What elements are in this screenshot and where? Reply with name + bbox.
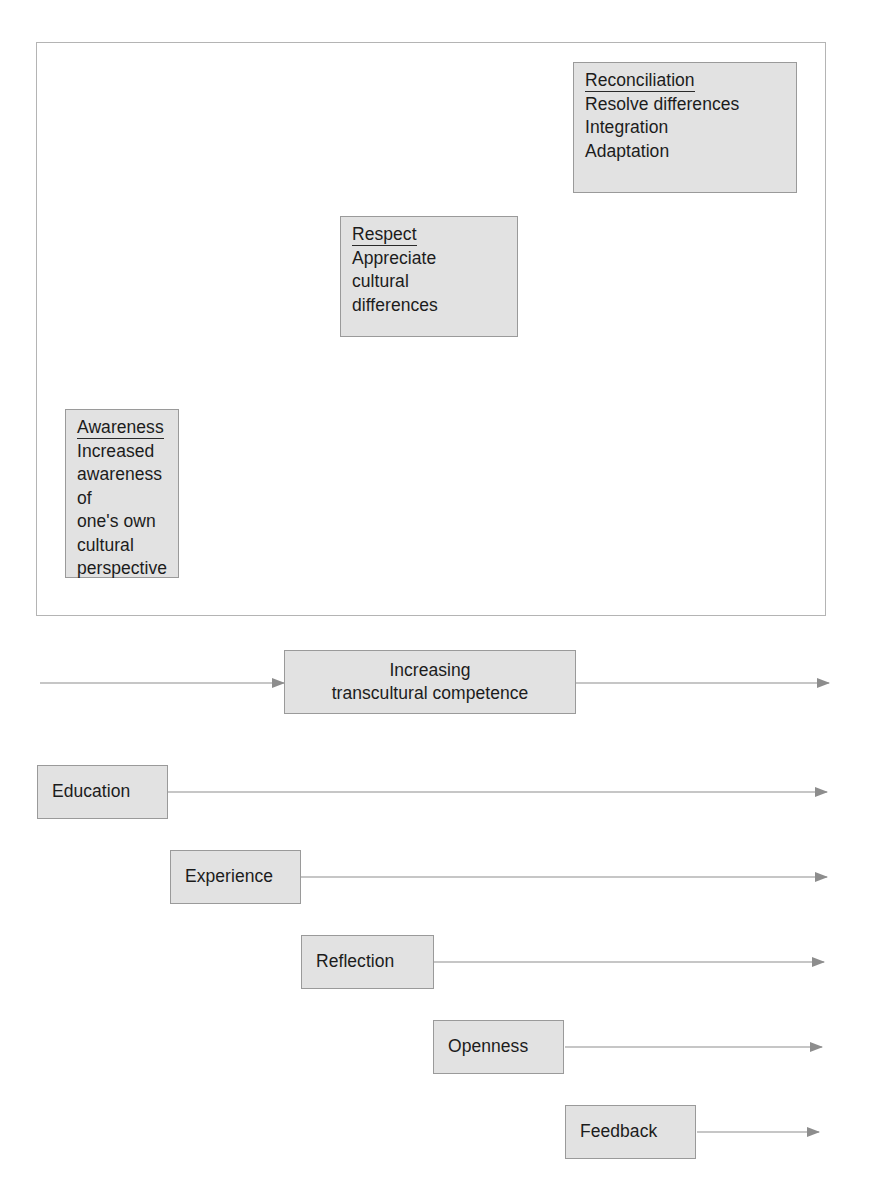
driver-label-reflection: Reflection (316, 950, 394, 974)
stage-box-reconciliation[interactable]: Reconciliation Resolve differences Integ… (573, 62, 797, 193)
stage-line-reconciliation-1: Resolve differences (585, 93, 787, 117)
stage-box-awareness[interactable]: Awareness Increased awareness of one's o… (65, 409, 179, 578)
competence-line-2: transcultural competence (332, 682, 529, 706)
stage-line-reconciliation-3: Adaptation (585, 140, 787, 164)
stage-line-awareness-4: cultural (77, 534, 169, 558)
diagram-canvas: Awareness Increased awareness of one's o… (0, 0, 869, 1190)
stage-line-respect-2: cultural (352, 270, 508, 294)
driver-box-reflection[interactable]: Reflection (301, 935, 434, 989)
stage-box-respect[interactable]: Respect Appreciate cultural differences (340, 216, 518, 337)
stage-heading-awareness: Awareness (77, 416, 164, 439)
stage-heading-reconciliation: Reconciliation (585, 69, 695, 92)
stage-heading-respect: Respect (352, 223, 417, 246)
competence-line-1: Increasing (332, 659, 529, 683)
driver-box-experience[interactable]: Experience (170, 850, 301, 904)
driver-label-openness: Openness (448, 1035, 528, 1059)
stage-line-awareness-5: perspective (77, 557, 169, 581)
stage-line-respect-3: differences (352, 294, 508, 318)
driver-label-experience: Experience (185, 865, 273, 889)
competence-axis-box[interactable]: Increasing transcultural competence (284, 650, 576, 714)
driver-label-feedback: Feedback (580, 1120, 657, 1144)
stage-line-awareness-3: one's own (77, 510, 169, 534)
driver-label-education: Education (52, 780, 130, 804)
driver-box-feedback[interactable]: Feedback (565, 1105, 696, 1159)
stage-line-awareness-2: awareness of (77, 463, 169, 510)
stage-line-reconciliation-2: Integration (585, 116, 787, 140)
driver-box-education[interactable]: Education (37, 765, 168, 819)
driver-box-openness[interactable]: Openness (433, 1020, 564, 1074)
stage-line-awareness-1: Increased (77, 440, 169, 464)
stage-line-respect-1: Appreciate (352, 247, 508, 271)
